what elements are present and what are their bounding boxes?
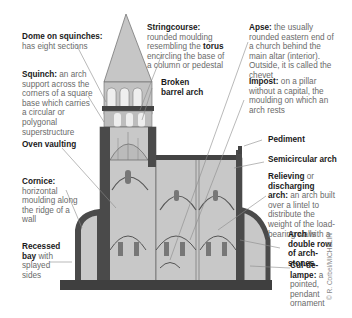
image-credit: © R. Corbel/MICHELIN xyxy=(326,233,333,300)
label-semicircular-arch: Semicircular arch xyxy=(268,155,337,165)
label-squinch: Squinch: an arch support across the corn… xyxy=(22,70,94,137)
label-pediment: Pediment xyxy=(268,135,305,145)
label-dome-on-squinches: Dome on squinches:has eight sections xyxy=(22,32,112,51)
label-stringcourse: Stringcourse: rounded moulding resemblin… xyxy=(147,23,231,71)
label-recessed-bay: Recessed bay with splayed sides xyxy=(22,242,62,280)
label-cornice: Cornice:horizontal moulding along the ri… xyxy=(22,177,78,225)
label-impost: Impost: on a pillar without a capital, t… xyxy=(249,77,341,115)
label-oven-vaulting: Oven vaulting xyxy=(22,140,76,150)
label-broken-barrel-arch: Broken barrel arch xyxy=(161,78,211,97)
label-apse: Apse: the usually rounded eastern end of… xyxy=(249,23,339,81)
